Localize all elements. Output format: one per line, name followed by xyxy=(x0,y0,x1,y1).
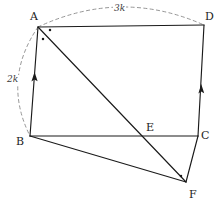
angle-dot-marks xyxy=(42,29,183,178)
parallel-arrow-marks xyxy=(31,72,204,94)
angle-dot-A-lower-icon xyxy=(42,38,45,41)
segment-AF xyxy=(38,27,186,182)
arc-measure-AB-path xyxy=(18,27,38,136)
geometry-figure: A D B C E F 3k 2k xyxy=(0,0,219,205)
vertex-label-A: A xyxy=(30,11,38,22)
vertex-label-B: B xyxy=(16,136,24,147)
segment-BF xyxy=(30,136,186,182)
segment-CF xyxy=(186,136,198,182)
angle-dot-A-upper-icon xyxy=(49,29,52,32)
segment-AD xyxy=(38,25,204,27)
vertex-label-F: F xyxy=(189,189,197,200)
angle-dot-F-icon xyxy=(180,175,183,178)
arrow-mark-CD-icon xyxy=(198,84,204,94)
vertex-label-C: C xyxy=(201,130,209,141)
vertex-label-D: D xyxy=(205,11,214,22)
segment-CD xyxy=(198,25,204,136)
measure-label-3k: 3k xyxy=(113,4,126,13)
geometry-canvas xyxy=(0,0,219,205)
figure-segments xyxy=(30,25,204,182)
measure-label-2k: 2k xyxy=(6,75,19,84)
vertex-label-E: E xyxy=(146,122,154,133)
segment-BA xyxy=(30,27,38,136)
